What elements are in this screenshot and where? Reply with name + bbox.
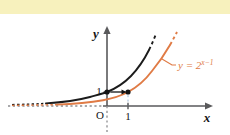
y-axis-arrowhead [103, 26, 110, 34]
y-tick-label-one: 1 [96, 85, 102, 97]
origin-label: O [96, 109, 104, 121]
equation-base: y = 2 [177, 59, 202, 71]
graph-svg: y x O 1 1 y = 2x−1 [0, 14, 230, 135]
top-decorative-band [0, 0, 230, 14]
graph-figure: y x O 1 1 y = 2x−1 [0, 14, 230, 135]
equation-label: y = 2x−1 [177, 58, 213, 71]
shifted-curve-top-dashed [170, 32, 177, 45]
base-curve-top-dashed [149, 34, 156, 50]
equation-leader-line [162, 59, 176, 65]
x-axis-label: x [203, 110, 211, 125]
figure-page: y x O 1 1 y = 2x−1 [0, 0, 230, 135]
x-axis-arrowhead [205, 102, 213, 109]
shifted-curve [56, 45, 170, 105]
point-marker-0-1 [104, 89, 109, 94]
shifted-curve-left-tail [12, 105, 56, 106]
equation-exponent: x−1 [200, 58, 213, 67]
y-axis-label: y [91, 26, 99, 41]
x-tick-label-one: 1 [125, 110, 131, 122]
